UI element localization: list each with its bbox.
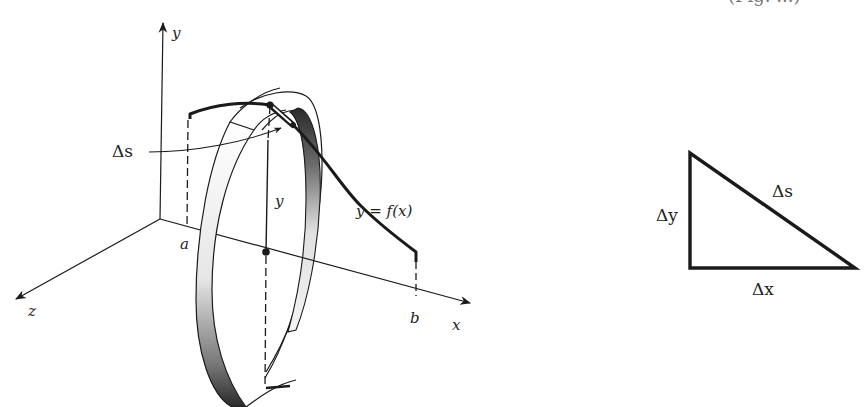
radius-line [266, 140, 268, 252]
y-axis-label: y [171, 24, 181, 42]
band-right-shaded [288, 108, 320, 332]
radius-label: y [274, 192, 284, 210]
delta-y-label: Δy [656, 205, 678, 225]
figure-canvas: (Fig. ...) y z x a b [0, 0, 865, 407]
surface-of-revolution-figure: (Fig. ...) y z x a b [0, 0, 865, 407]
z-axis [16, 219, 160, 299]
z-axis-label: z [27, 302, 36, 320]
y-axis [160, 23, 163, 219]
interval-start-label: a [180, 235, 189, 253]
delta-x-label: Δx [752, 279, 774, 299]
band-left-shaded [196, 122, 254, 407]
dashed-line-a [187, 120, 188, 227]
axis-center-point [262, 248, 270, 256]
radius-dashed-bottom [265, 256, 266, 388]
left-diagram: y z x a b [16, 23, 470, 407]
figure-caption-fragment: (Fig. ...) [728, 0, 800, 6]
right-diagram-triangle: Δy Δs Δx [656, 153, 855, 299]
band-bottom-edge [246, 380, 296, 407]
right-triangle [690, 153, 855, 268]
bottom-band-mark [266, 386, 290, 388]
arc-element-highlight [272, 106, 291, 123]
delta-s-label: Δs [772, 181, 793, 201]
x-axis-label: x [452, 316, 461, 334]
arc-element-label: Δs [112, 141, 133, 161]
interval-end-label: b [410, 309, 420, 327]
curve-label: y = f(x) [355, 202, 412, 220]
arc-element-pointer-arrow [149, 128, 281, 152]
